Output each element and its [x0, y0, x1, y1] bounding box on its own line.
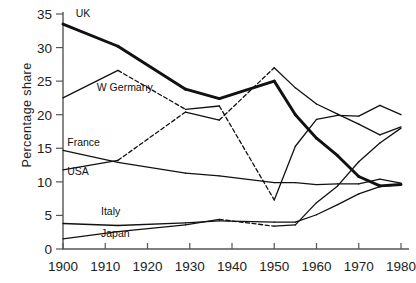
y-tick-label: 0: [44, 242, 52, 257]
series-segment: [186, 112, 220, 120]
y-tick-label: 25: [37, 74, 52, 89]
x-tick-label: 1910: [90, 259, 120, 274]
series-inline-labels: UKW GermanyFranceUSAItalyJapan: [67, 7, 153, 239]
series-segment: [118, 112, 186, 160]
series-segment: [63, 223, 118, 225]
series-segment: [219, 176, 274, 183]
y-tick-label: 20: [37, 108, 52, 123]
series-segment: [274, 146, 295, 200]
series-segment: [317, 115, 338, 119]
x-tick-label: 1970: [344, 259, 374, 274]
y-tick-label: 10: [37, 175, 52, 190]
series-segment: [317, 184, 338, 185]
series-segment: [118, 162, 186, 173]
series-label-france: France: [67, 136, 100, 148]
y-tick-label: 35: [37, 7, 52, 22]
chart-plot-area: 190019101920193019401950196019701980 051…: [0, 0, 416, 283]
x-axis: 190019101920193019401950196019701980: [48, 243, 416, 274]
y-axis: 05101520253035: [37, 7, 63, 257]
x-tick-label: 1960: [301, 259, 331, 274]
series-segment: [317, 138, 338, 155]
series-segment: [219, 106, 274, 200]
y-tick-label: 5: [44, 208, 52, 223]
y-tick-label: 30: [37, 41, 52, 56]
x-tick-label: 1950: [259, 259, 289, 274]
series-label-uk: UK: [76, 7, 91, 19]
x-tick-label: 1920: [132, 259, 162, 274]
series-segment: [274, 81, 295, 115]
series-segment: [186, 106, 220, 109]
series-segment: [295, 115, 316, 138]
series-segment: [317, 205, 338, 215]
series-label-japan: Japan: [101, 227, 130, 239]
series-segment: [295, 88, 316, 104]
series-segment: [359, 187, 380, 194]
series-segment: [63, 24, 118, 46]
series-segment: [317, 104, 338, 114]
series-segment: [118, 223, 186, 226]
series-segment: [359, 143, 380, 162]
series-segment: [380, 105, 401, 114]
series-label-usa: USA: [67, 165, 89, 177]
x-tick-label: 1900: [48, 259, 78, 274]
x-tick-label: 1940: [217, 259, 247, 274]
series-label-italy: Italy: [101, 205, 121, 217]
series-segment: [219, 81, 274, 98]
series-segment: [295, 183, 316, 185]
series-segment: [338, 194, 359, 205]
series-segment: [63, 150, 118, 162]
line-chart-figure: Percentage share 19001910192019301940195…: [0, 0, 416, 283]
series-segment: [274, 225, 295, 226]
series-segment: [295, 203, 316, 225]
series-segment: [219, 68, 274, 120]
series-label-w-germany: W Germany: [97, 81, 154, 93]
series-segment: [186, 173, 220, 176]
y-tick-label: 15: [37, 141, 52, 156]
x-tick-label: 1930: [175, 259, 205, 274]
series-segment: [317, 186, 338, 203]
series-segment: [186, 89, 220, 98]
series-segment: [380, 179, 401, 183]
x-tick-label: 1980: [386, 259, 416, 274]
series-segment: [359, 124, 380, 135]
series-segment: [359, 105, 380, 116]
series-segment: [219, 219, 274, 226]
